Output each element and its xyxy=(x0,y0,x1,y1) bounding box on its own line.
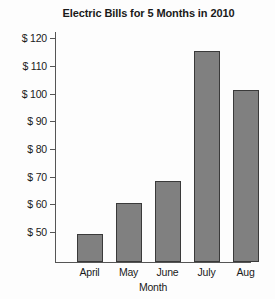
x-axis-tick-label: April xyxy=(79,266,99,278)
y-axis-tick-mark xyxy=(50,94,56,95)
chart-title: Electric Bills for 5 Months in 2010 xyxy=(0,7,275,19)
y-axis-tick-mark xyxy=(50,204,56,205)
x-axis-title: Month xyxy=(55,281,251,293)
bar xyxy=(155,181,181,262)
y-axis-tick-label: $ 100 xyxy=(22,88,47,100)
y-axis-tick-mark xyxy=(50,121,56,122)
bar-group: July xyxy=(187,29,226,262)
y-axis-tick-mark xyxy=(50,149,56,150)
bar-group: May xyxy=(109,29,148,262)
y-axis-tick-mark xyxy=(50,232,56,233)
x-axis-tick-label: June xyxy=(157,266,179,278)
x-axis-tick-label: Aug xyxy=(236,266,254,278)
bar xyxy=(77,234,103,262)
y-axis-tick-mark xyxy=(50,38,56,39)
y-axis-tick-label: $ 120 xyxy=(22,32,47,44)
bar xyxy=(194,51,220,262)
y-axis-tick-label: $ 50 xyxy=(27,226,47,238)
y-axis-tick-label: $ 80 xyxy=(27,143,47,155)
y-axis-tick-label: $ 70 xyxy=(27,171,47,183)
bar-chart: Electric Bills for 5 Months in 2010 $ 12… xyxy=(0,0,275,299)
plot-area: $ 120$ 110$ 100$ 90$ 80$ 70$ 60$ 50 Apri… xyxy=(55,30,251,263)
y-axis-tick-label: $ 60 xyxy=(27,198,47,210)
bar-group: Aug xyxy=(226,29,265,262)
bar xyxy=(116,203,142,262)
y-axis-tick-label: $ 90 xyxy=(27,115,47,127)
y-axis-tick-label: $ 110 xyxy=(23,60,48,72)
x-axis-tick-label: July xyxy=(198,266,216,278)
bar-group: April xyxy=(70,29,109,262)
y-axis-tick-mark xyxy=(50,66,56,67)
y-axis-tick-mark xyxy=(50,177,56,178)
bar xyxy=(233,90,259,262)
x-axis-tick-label: May xyxy=(119,266,138,278)
x-axis-line xyxy=(55,262,251,263)
bar-group: June xyxy=(148,29,187,262)
